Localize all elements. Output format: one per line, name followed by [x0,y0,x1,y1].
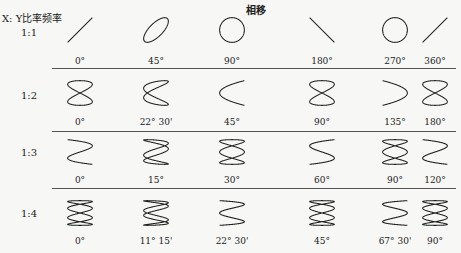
lissajous-figure-icon [380,15,410,45]
row-separator [52,68,456,69]
lissajous-figure-icon [65,198,95,228]
phase-label: 360° [405,56,461,66]
lissajous-figure-icon [420,15,450,45]
lissajous-figure-icon [65,78,95,108]
row-separator [52,188,456,189]
phase-label: 0° [50,56,110,66]
lissajous-figure-icon [307,78,337,108]
phase-label: 0° [50,175,110,185]
lissajous-figure-icon [307,137,337,167]
lissajous-figure-icon [217,78,247,108]
lissajous-figure-icon [307,15,337,45]
phase-label: 90° [405,236,461,246]
phase-label: 22° 30' [202,236,262,246]
phase-label: 0° [50,236,110,246]
phase-label: 45° [202,117,262,127]
ratio-label-1-2: 1:2 [14,90,44,101]
row-separator [52,131,456,132]
lissajous-figure-icon [217,15,247,45]
lissajous-figure-icon [65,137,95,167]
phase-label: 11° 15' [126,236,186,246]
phase-label: 15° [126,175,186,185]
lissajous-figure-icon [141,15,171,45]
lissajous-figure-icon [141,137,171,167]
phase-label: 180° [405,117,461,127]
lissajous-figure-icon [420,137,450,167]
lissajous-figure-icon [420,78,450,108]
lissajous-figure-icon [420,198,450,228]
phase-label: 90° [202,56,262,66]
phase-label: 180° [292,56,352,66]
ratio-label-1-1: 1:1 [14,27,44,38]
lissajous-figure-icon [65,15,95,45]
lissajous-figure-icon [141,198,171,228]
phase-label: 0° [50,117,110,127]
ratio-label-1-4: 1:4 [14,208,44,219]
lissajous-figure-icon [217,137,247,167]
phase-label: 60° [292,175,352,185]
lissajous-figure-icon [380,137,410,167]
lissajous-figure-icon [380,78,410,108]
lissajous-figure-icon [141,78,171,108]
phase-label: 30° [202,175,262,185]
phase-label: 22° 30' [126,117,186,127]
lissajous-figure-icon [307,198,337,228]
lissajous-figure-icon [217,198,247,228]
lissajous-figure-icon [380,198,410,228]
phase-label: 45° [126,56,186,66]
phase-shift-title: 相移 [246,2,266,17]
frequency-ratio-title: X: Y比率频率 [2,10,62,25]
ratio-label-1-3: 1:3 [14,147,44,158]
phase-label: 90° [292,117,352,127]
phase-label: 120° [405,175,461,185]
phase-label: 45° [292,236,352,246]
